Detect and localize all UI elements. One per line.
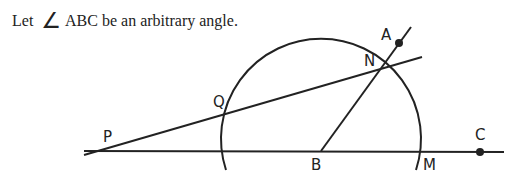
point-a bbox=[395, 39, 403, 47]
point-c bbox=[476, 148, 484, 156]
label-q: Q bbox=[213, 93, 225, 111]
label-a: A bbox=[381, 26, 392, 44]
label-m: M bbox=[423, 156, 436, 172]
geometry-figure: A N Q P B M C bbox=[0, 0, 513, 172]
label-c: C bbox=[475, 126, 485, 144]
label-p: P bbox=[103, 128, 112, 146]
label-n: N bbox=[364, 52, 375, 70]
line-bc bbox=[84, 151, 504, 152]
line-pn bbox=[84, 57, 422, 155]
label-b: B bbox=[311, 156, 321, 172]
